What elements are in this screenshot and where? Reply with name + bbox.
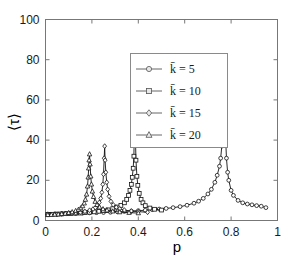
x-tick-label: 0.6	[176, 225, 193, 239]
chart-legend: k̄ = 5k̄ = 10k̄ = 15k̄ = 20	[131, 54, 228, 148]
x-tick-label: 0.4	[130, 225, 147, 239]
square-marker	[146, 88, 151, 93]
chart-canvas: 00.20.40.60.81 020406080100 k̄ = 5k̄ = 1…	[0, 0, 291, 260]
y-tick-label: 40	[26, 133, 40, 147]
y-tick-label: 80	[26, 53, 40, 67]
y-tick-label: 60	[26, 93, 40, 107]
y-tick-label: 100	[19, 13, 39, 27]
circle-marker	[146, 66, 151, 71]
legend-label: k̄ = 10	[170, 84, 201, 98]
legend-label: k̄ = 20	[170, 128, 201, 142]
x-tick-label: 0.8	[223, 225, 240, 239]
y-tick-label: 0	[33, 214, 40, 228]
x-tick-label: 0.2	[84, 225, 101, 239]
y-tick-label: 20	[26, 173, 40, 187]
legend-label: k̄ = 5	[170, 62, 195, 76]
legend-label: k̄ = 15	[170, 106, 201, 120]
x-tick-label: 1	[274, 225, 281, 239]
y-axis-title: ⟨τ⟩	[5, 113, 22, 131]
x-tick-label: 0	[42, 225, 49, 239]
x-axis-title: p	[173, 238, 181, 255]
chart-figure: 00.20.40.60.81 020406080100 k̄ = 5k̄ = 1…	[0, 0, 291, 260]
